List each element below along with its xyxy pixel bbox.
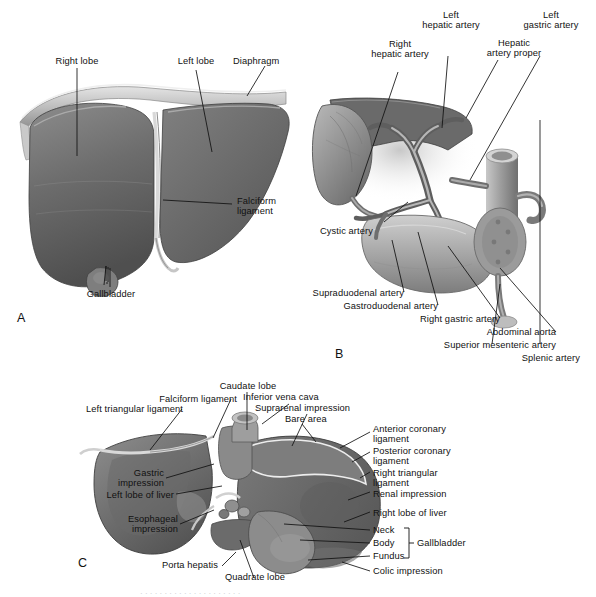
- label-posterior-coronary-ligament: Posterior coronary ligament: [373, 446, 451, 467]
- label-hepatic-artery-proper: Hepatic artery proper: [470, 38, 558, 59]
- label-falciform-ligament: Falciform ligament: [131, 394, 237, 404]
- label-neck: Neck: [373, 525, 395, 535]
- gallbladder-bracket-line: [404, 528, 414, 558]
- label-porta-hepatis: Porta hepatis: [118, 560, 218, 570]
- label-right-lobe: Right lobe: [42, 56, 112, 66]
- label-body: Body: [373, 538, 395, 548]
- label-left-triangular-ligament: Left triangular ligament: [55, 404, 183, 414]
- label-diaphragm: Diaphragm: [233, 56, 279, 66]
- label-anterior-coronary-ligament: Anterior coronary ligament: [373, 424, 446, 445]
- label-cystic-artery: Cystic artery: [320, 226, 373, 236]
- label-right-triangular-ligament: Right triangular ligament: [373, 468, 438, 489]
- label-right-gastric-artery: Right gastric artery: [378, 314, 500, 324]
- label-bare-area: Bare area: [285, 414, 327, 424]
- figure-caption-clipped: · · · · · · · · · · · · · · · · · · · · …: [140, 589, 580, 597]
- label-left-hepatic-artery: Left hepatic artery: [408, 10, 494, 31]
- label-left-gastric-artery: Left gastric artery: [508, 10, 594, 31]
- label-suprarenal-impression: Suprarenal impression: [255, 403, 350, 413]
- label-abdominal-aorta: Abdominal aorta: [410, 327, 556, 337]
- label-renal-impression: Renal impression: [373, 489, 446, 499]
- label-esophageal-impression: Esophageal impression: [62, 514, 178, 535]
- label-quadrate-lobe: Quadrate lobe: [212, 572, 298, 582]
- label-caudate-lobe: Caudate lobe: [205, 381, 291, 391]
- label-colic-impression: Colic impression: [373, 566, 443, 576]
- label-supraduodenal-artery: Supraduodenal artery: [300, 288, 404, 298]
- label-left-lobe-of-liver: Left lobe of liver: [58, 490, 174, 500]
- label-gastric-impression: Gastric impression: [66, 468, 164, 489]
- label-gallbladder: Gallbladder: [75, 289, 147, 299]
- panel-a-artwork: [20, 85, 289, 297]
- label-left-lobe: Left lobe: [163, 56, 229, 66]
- label-right-hepatic-artery: Right hepatic artery: [358, 39, 442, 60]
- panel-letter-a: A: [17, 311, 25, 325]
- label-inferior-vena-cava: Inferior vena cava: [243, 392, 319, 402]
- panel-letter-b: B: [335, 347, 343, 361]
- label-gallbladder-bracket: Gallbladder: [417, 538, 466, 548]
- label-superior-mesenteric-artery: Superior mesenteric artery: [368, 340, 556, 350]
- label-gastroduodenal-artery: Gastroduodenal artery: [318, 301, 438, 311]
- panel-letter-c: C: [78, 556, 87, 570]
- label-falciform-ligament: Falciform ligament: [237, 196, 276, 217]
- label-splenic-artery: Splenic artery: [440, 353, 580, 363]
- label-fundus: Fundus: [373, 551, 405, 561]
- label-right-lobe-of-liver: Right lobe of liver: [373, 508, 447, 518]
